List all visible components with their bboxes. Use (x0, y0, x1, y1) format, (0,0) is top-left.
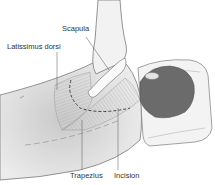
label-trapezius: Trapezius (70, 172, 103, 180)
label-scapula: Scapula (62, 25, 89, 33)
head (140, 66, 194, 118)
label-incision: Incision (114, 172, 139, 180)
label-latissimus-dorsi: Latissimus dorsi (7, 43, 61, 51)
illustration-drawing (0, 0, 215, 185)
anatomy-illustration: Scapula Latissimus dorsi Trapezius Incis… (0, 0, 215, 185)
ear (145, 73, 159, 80)
